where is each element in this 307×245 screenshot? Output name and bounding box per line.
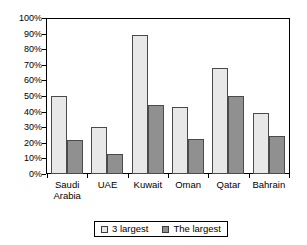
bar-series-b (67, 140, 83, 174)
x-axis-tick-mark (168, 174, 169, 178)
x-axis-category-label: Saudi Arabia (47, 179, 87, 201)
y-axis-tick-mark (42, 65, 46, 66)
y-axis-tick-label: 60% (0, 76, 42, 85)
y-axis-tick-label: 70% (0, 60, 42, 69)
x-axis-tick-mark (87, 174, 88, 178)
y-axis-tick-label: 30% (0, 123, 42, 132)
y-axis-tick-mark (42, 18, 46, 19)
bar-series-a (91, 127, 107, 174)
x-axis-category-label: Oman (168, 179, 208, 201)
bar-series-a (212, 68, 228, 174)
bar-chart: 100%90%80%70%60%50%40%30%20%10%0% Saudi … (0, 0, 307, 245)
legend-item[interactable]: 3 largest (101, 224, 148, 234)
y-axis-tick-mark (42, 127, 46, 128)
bar-series-a (51, 96, 67, 174)
x-axis-tick-mark (208, 174, 209, 178)
x-axis-category-label: Kuwait (128, 179, 168, 201)
legend-label: The largest (173, 224, 221, 234)
y-axis-tick-mark (42, 96, 46, 97)
y-axis-tick-label: 50% (0, 92, 42, 101)
x-axis-category-label: Bahrain (249, 179, 289, 201)
bar-series-b (269, 136, 285, 174)
x-axis-tick-mark (249, 174, 250, 178)
bar-series-b (107, 154, 123, 174)
y-axis-tick-mark (42, 80, 46, 81)
x-axis-tick-mark (47, 174, 48, 178)
y-axis-tick-mark (42, 49, 46, 50)
y-axis-tick-mark (42, 158, 46, 159)
x-axis-tick-mark (128, 174, 129, 178)
bar-series-a (132, 35, 148, 174)
bar-series-a (253, 113, 269, 174)
y-axis-tick-mark (42, 174, 46, 175)
legend-swatch-icon (101, 226, 108, 233)
bar-series-b (148, 105, 164, 174)
y-axis-tick-label: 100% (0, 14, 42, 23)
y-axis-tick-label: 0% (0, 170, 42, 179)
legend-swatch-icon (162, 226, 169, 233)
legend-label: 3 largest (112, 224, 148, 234)
y-axis-tick-label: 80% (0, 45, 42, 54)
y-axis-tick-mark (42, 34, 46, 35)
y-axis-tick-label: 40% (0, 107, 42, 116)
bar-group (208, 19, 248, 174)
legend-item[interactable]: The largest (162, 224, 221, 234)
plot-area (47, 19, 289, 174)
x-axis: Saudi ArabiaUAEKuwaitOmanQatarBahrain (47, 179, 289, 201)
bar-series-b (188, 139, 204, 174)
y-axis-tick-mark (42, 143, 46, 144)
y-axis-tick-label: 90% (0, 29, 42, 38)
x-axis-tick-mark (289, 174, 290, 178)
bar-group (47, 19, 87, 174)
bar-series-a (172, 107, 188, 174)
bar-group (249, 19, 289, 174)
y-axis-tick-label: 20% (0, 138, 42, 147)
y-axis-tick-label: 10% (0, 154, 42, 163)
chart-legend: 3 largestThe largest (94, 221, 228, 237)
y-axis: 100%90%80%70%60%50%40%30%20%10%0% (0, 18, 42, 174)
x-axis-category-label: UAE (87, 179, 127, 201)
y-axis-tick-mark (42, 112, 46, 113)
bar-group (87, 19, 127, 174)
bar-series-b (228, 96, 244, 174)
x-axis-category-label: Qatar (208, 179, 248, 201)
bar-group (128, 19, 168, 174)
bar-group (168, 19, 208, 174)
